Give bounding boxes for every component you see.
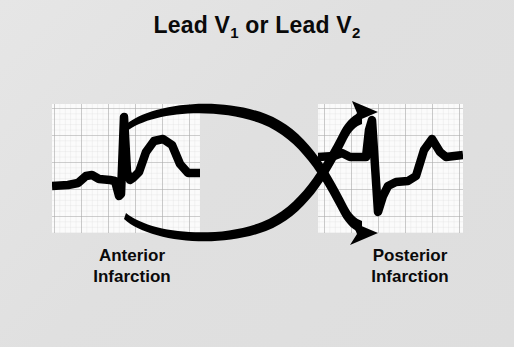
- caption-anterior-infarction: Anterior Infarction: [52, 246, 212, 287]
- ecg-grid-posterior: [318, 104, 463, 233]
- caption-posterior-infarction: Posterior Infarction: [330, 246, 490, 287]
- diagram-graphics: [0, 0, 514, 347]
- figure-canvas: Lead V1 or Lead V2: [0, 0, 514, 347]
